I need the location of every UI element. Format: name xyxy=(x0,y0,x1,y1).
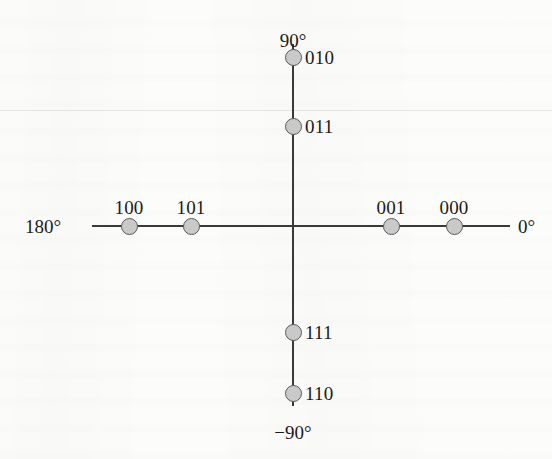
axis-label-180-deg: 180° xyxy=(25,217,61,236)
page-scan-line xyxy=(0,110,552,111)
constellation-point-101 xyxy=(183,218,200,235)
constellation-point-110 xyxy=(285,385,302,402)
phase-diagram-figure: 180° 0° 90° −90° 01001111111010010100100… xyxy=(0,0,552,459)
axis-label-0-deg: 0° xyxy=(518,217,535,236)
point-label-101: 101 xyxy=(176,198,205,217)
constellation-point-000 xyxy=(446,218,463,235)
point-label-100: 100 xyxy=(114,198,143,217)
point-label-111: 111 xyxy=(305,323,333,342)
constellation-point-011 xyxy=(285,118,302,135)
point-label-010: 010 xyxy=(305,48,334,67)
point-label-001: 001 xyxy=(376,198,405,217)
constellation-point-010 xyxy=(285,49,302,66)
constellation-point-001 xyxy=(383,218,400,235)
page-bleed-texture xyxy=(0,0,552,459)
constellation-point-100 xyxy=(121,218,138,235)
axis-label-90-deg: 90° xyxy=(280,31,307,50)
axis-label-minus-90-deg: −90° xyxy=(274,423,311,442)
constellation-point-111 xyxy=(285,324,302,341)
point-label-000: 000 xyxy=(439,198,468,217)
point-label-011: 011 xyxy=(305,117,333,136)
point-label-110: 110 xyxy=(305,384,333,403)
vertical-phase-axis xyxy=(292,44,294,406)
